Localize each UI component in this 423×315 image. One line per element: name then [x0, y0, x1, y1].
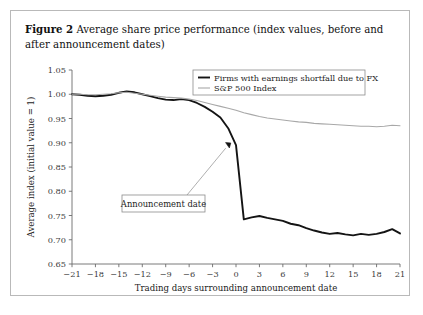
figure-caption-text: Average share price performance (index v… [25, 24, 383, 50]
figure-label: Figure 2 [25, 23, 73, 35]
figure-frame: Figure 2 Average share price performance… [10, 10, 410, 296]
figure-caption: Figure 2 Average share price performance… [25, 22, 393, 52]
